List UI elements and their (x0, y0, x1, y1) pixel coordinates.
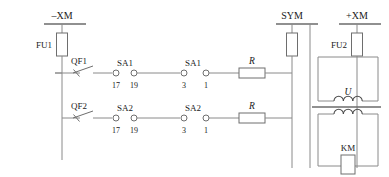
contact-sa2b-term-1 (203, 115, 209, 121)
load-km-coil-arc-1 (334, 109, 343, 114)
contact-sa2b-term-3 (181, 115, 187, 121)
load-u-coil-arc-1 (334, 96, 343, 101)
contact-sa2a-label: SA2 (117, 103, 133, 113)
resistor-r1-label: R (248, 56, 255, 66)
fuse-fu1-body (57, 33, 68, 56)
rail-neg-xm-label: –XM (50, 10, 72, 21)
contact-sa2a-term-17 (113, 115, 119, 121)
contact-sa1a-term-17-label: 17 (112, 81, 120, 90)
fuse-sym-body (287, 33, 298, 56)
contact-sa1b-term-1 (203, 70, 209, 76)
load-km-label: KM (341, 143, 356, 153)
contact-sa1b-term-3 (181, 70, 187, 76)
load-km-group (318, 109, 378, 174)
contact-sa1a-term-17 (113, 70, 119, 76)
contact-sa1a-term-19-label: 19 (130, 81, 138, 90)
fuse-fu2-label: FU2 (331, 40, 347, 50)
rail-sym-label: SYM (281, 10, 303, 21)
schematic-canvas: –XM SYM +XM FU1 FU2 QF1 QF2 SA1 17 19 SA… (0, 0, 389, 177)
rail-pos-xm-label: +XM (346, 10, 368, 21)
contact-sa1a-label: SA1 (117, 58, 133, 68)
contact-sa2b-label: SA2 (185, 103, 201, 113)
contactor-km-body (341, 155, 355, 174)
branch-1-group (55, 66, 292, 78)
contact-sa1b-label: SA1 (185, 58, 201, 68)
contact-sa1a-term-19 (131, 70, 137, 76)
fuse-fu1-label: FU1 (36, 40, 52, 50)
load-u-label: U (345, 87, 353, 97)
resistor-r2-label: R (248, 101, 255, 111)
contact-sa2a-term-19-label: 19 (130, 126, 138, 135)
resistor-r1-body (239, 68, 265, 78)
contact-sa2a-term-17-label: 17 (112, 126, 120, 135)
contact-sa1b-term-3-label: 3 (182, 81, 186, 90)
breaker-qf2-label: QF2 (71, 101, 87, 111)
load-u-coil-arc-2 (343, 96, 352, 101)
contact-sa1b-term-1-label: 1 (204, 81, 208, 90)
rail-sym-group (276, 24, 318, 168)
load-km-coil-arc-2 (343, 109, 352, 114)
schematic-svg: –XM SYM +XM FU1 FU2 QF1 QF2 SA1 17 19 SA… (0, 0, 389, 177)
contact-sa2b-term-1-label: 1 (204, 126, 208, 135)
fuse-fu2-body (352, 33, 363, 56)
contact-sa2a-term-19 (131, 115, 137, 121)
resistor-r2-body (239, 113, 265, 123)
contact-sa2b-term-3-label: 3 (182, 126, 186, 135)
branch-2-group (62, 111, 292, 123)
breaker-qf1-label: QF1 (71, 56, 87, 66)
